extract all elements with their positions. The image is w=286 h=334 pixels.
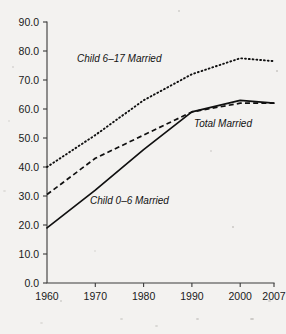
x-tick-label: 1970 [84, 290, 108, 302]
series-label-child-0-6-married: Child 0–6 Married [90, 195, 169, 206]
series-label-total-married: Total Married [194, 118, 252, 129]
y-tick-label: 10.0 [19, 248, 40, 260]
x-tick-label: 2000 [229, 290, 253, 302]
y-axis-tick-labels: 0.010.020.030.040.050.060.070.080.090.0 [19, 16, 40, 289]
y-axis-tick-marks [43, 22, 47, 283]
y-tick-label: 70.0 [19, 74, 40, 86]
line-chart: 0.010.020.030.040.050.060.070.080.090.0 … [0, 0, 286, 334]
y-tick-label: 90.0 [19, 16, 40, 28]
x-axis-tick-labels: 196019701980199020002007 [35, 290, 286, 302]
y-tick-label: 20.0 [19, 219, 40, 231]
y-tick-label: 50.0 [19, 132, 40, 144]
x-tick-label: 1990 [180, 290, 204, 302]
y-tick-label: 80.0 [19, 45, 40, 57]
y-tick-label: 40.0 [19, 161, 40, 173]
x-tick-label: 2007 [262, 290, 286, 302]
x-tick-label: 1960 [35, 290, 59, 302]
series-line-child-6-17-married [47, 58, 274, 167]
y-tick-label: 30.0 [19, 190, 40, 202]
series-line-total-married [47, 103, 274, 194]
x-axis-tick-marks [95, 283, 274, 287]
y-tick-label: 0.0 [24, 277, 39, 289]
chart-figure: 0.010.020.030.040.050.060.070.080.090.0 … [0, 0, 286, 334]
x-tick-label: 1980 [132, 290, 156, 302]
series-label-child-6-17-married: Child 6–17 Married [77, 53, 162, 64]
y-tick-label: 60.0 [19, 103, 40, 115]
